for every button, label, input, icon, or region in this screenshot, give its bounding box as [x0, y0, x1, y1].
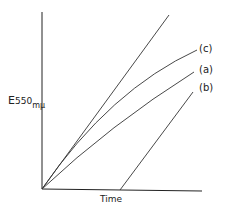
series-b-line [120, 92, 193, 190]
chart: (c) (a) (b) E550mμ Time [0, 0, 227, 210]
y-label-num: 550 [15, 96, 32, 106]
series-a-line [42, 72, 194, 189]
y-label-sub: mμ [32, 101, 45, 110]
label-a: (a) [199, 65, 213, 75]
label-c: (c) [199, 44, 212, 54]
x-axis-label: Time [100, 194, 122, 204]
y-axis-label: E550mμ [8, 96, 45, 107]
x-axis [42, 189, 202, 191]
y-label-main: E [8, 94, 15, 107]
label-b: (b) [199, 83, 213, 93]
